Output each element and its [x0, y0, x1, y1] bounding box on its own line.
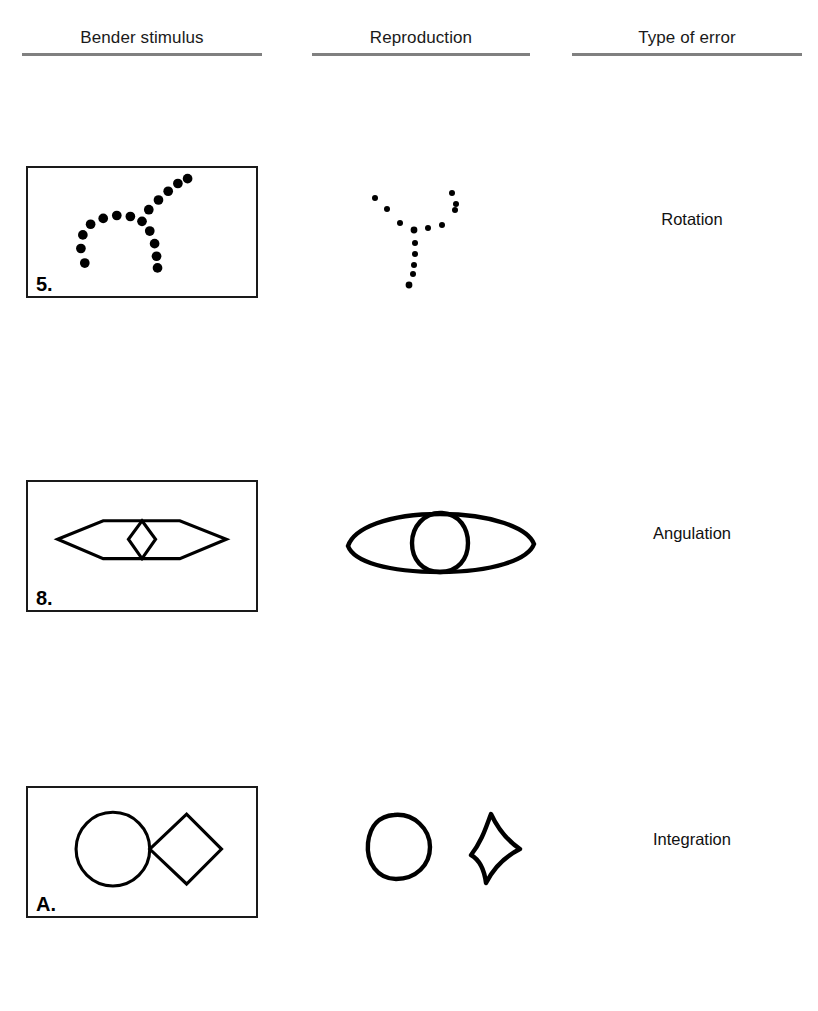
table-row: 3.: [0, 700, 818, 832]
table-row: 8. Angulation: [0, 240, 818, 372]
column-header-label: Type of error: [572, 28, 802, 53]
table-header: Bender stimulus Reproduction Type of err…: [0, 28, 818, 74]
column-header-reproduction: Reproduction: [312, 28, 530, 56]
column-header-rule: [312, 53, 530, 56]
table-row: 5. Rotation: [0, 83, 818, 215]
column-header-bender-stimulus: Bender stimulus: [22, 28, 262, 56]
column-header-label: Reproduction: [312, 28, 530, 53]
error-type-label: Integration: [572, 830, 812, 849]
bender-error-table: Bender stimulus Reproduction Type of err…: [0, 0, 818, 1011]
column-header-label: Bender stimulus: [22, 28, 262, 53]
column-header-type-of-error: Type of error: [572, 28, 802, 56]
column-header-rule: [22, 53, 262, 56]
table-row: A. Integration: [0, 393, 818, 525]
table-row: 1.: [0, 543, 818, 675]
error-type-label: Angulation: [572, 524, 812, 543]
column-header-rule: [572, 53, 802, 56]
error-type-label: Rotation: [572, 210, 812, 229]
table-row: A. Disproportion: [0, 855, 818, 987]
